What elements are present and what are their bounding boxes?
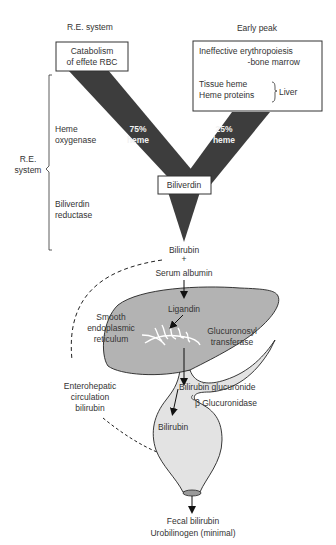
re-system-brace-icon xyxy=(46,75,52,250)
side-brace-label-line1: R.E. xyxy=(20,154,37,164)
plus-label: + xyxy=(182,254,187,264)
biliverdin-label: Biliverdin xyxy=(167,180,202,190)
glucuronidase-label: β Glucuronidase xyxy=(195,398,257,408)
header-re-system: R.E. system xyxy=(67,22,113,32)
bilirubin-diagram: R.E. system Early peak Catabolism of eff… xyxy=(0,0,336,545)
source-left-line1: Catabolism xyxy=(71,46,114,56)
source-right-line1: Ineffective erythropoiesis xyxy=(199,46,293,56)
biliverdin-box: Biliverdin xyxy=(158,176,211,194)
ligandin-label: Ligandin xyxy=(168,304,200,314)
side-brace-label-line2: system xyxy=(15,165,42,175)
enterohepatic-label-line1: Enterohepatic xyxy=(64,381,117,391)
flow-right-unit: heme xyxy=(213,135,235,145)
source-right-line4: Heme proteins xyxy=(199,90,254,100)
source-right-line2: -bone marrow xyxy=(248,57,301,67)
header-early-peak: Early peak xyxy=(237,23,278,33)
source-right-brace-label: Liver xyxy=(279,87,298,97)
enzyme-biliverdin-reductase-line1: Biliverdin xyxy=(55,199,90,209)
glucuronosyl-label-line1: Glucuronosyl xyxy=(207,326,257,336)
enzyme-biliverdin-reductase-line2: reductase xyxy=(55,210,93,220)
intestine-outlet xyxy=(183,490,201,496)
output-fecal-bilirubin: Fecal bilirubin xyxy=(167,516,220,526)
ser-label-line2: endoplasmic xyxy=(87,323,135,333)
flow-left-unit: heme xyxy=(127,135,149,145)
ser-label-line3: reticulum xyxy=(94,334,128,344)
ser-label-line1: Smooth xyxy=(96,312,126,322)
source-right-line3: Tissue heme xyxy=(199,79,248,89)
flow-right-percent: 25% xyxy=(215,124,232,134)
enzyme-heme-oxygenase-line2: oxygenase xyxy=(55,135,96,145)
bilirubin-glucuronide-label: Bilirubin glucuronide xyxy=(179,382,256,392)
enterohepatic-path-lower xyxy=(103,418,157,452)
source-left-line2: of effete RBC xyxy=(67,57,118,67)
serum-albumin-label: Serum albumin xyxy=(155,268,212,278)
intestine-bilirubin-label: Bilirubin xyxy=(158,422,189,432)
source-box-right: Ineffective erythropoiesis -bone marrow … xyxy=(193,41,322,111)
enterohepatic-label-line2: circulation xyxy=(71,392,110,402)
output-urobilinogen: Urobilinogen (minimal) xyxy=(150,528,235,538)
glucuronosyl-label-line2: transferase xyxy=(211,337,254,347)
flow-left-percent: 75% xyxy=(129,124,146,134)
source-box-left: Catabolism of effete RBC xyxy=(56,42,128,71)
flow-arrow-down xyxy=(168,192,200,242)
enzyme-heme-oxygenase-line1: Heme xyxy=(55,124,78,134)
enterohepatic-label-line3: bilirubin xyxy=(75,403,105,413)
